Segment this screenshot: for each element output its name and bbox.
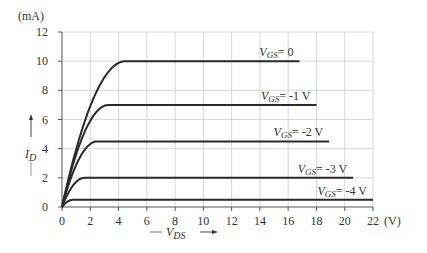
y-tick-label: 8 bbox=[42, 83, 48, 97]
x-tick-label: 0 bbox=[59, 214, 65, 228]
curve-vgs-0 bbox=[62, 61, 300, 207]
y-tick-label: 10 bbox=[36, 54, 48, 68]
curve-vgs-4 bbox=[62, 200, 373, 207]
arrow-right-icon bbox=[212, 230, 218, 234]
y-tick-label: 6 bbox=[42, 113, 48, 127]
y-tick-label: 2 bbox=[42, 171, 48, 185]
jfet-drain-characteristics-chart: 0246810121416182022(V)024681012 VGS= 0VG… bbox=[0, 0, 427, 253]
y-tick-label: 0 bbox=[42, 200, 48, 214]
curve-vgs-3 bbox=[62, 178, 353, 207]
x-tick-label: 2 bbox=[87, 214, 93, 228]
curve-label-sub: GS bbox=[325, 189, 336, 199]
curve-label-value: = -3 V bbox=[316, 162, 348, 176]
y-axis-title: ID bbox=[24, 114, 37, 176]
x-tick-label: 20 bbox=[339, 214, 351, 228]
x-tick-label: 18 bbox=[310, 214, 322, 228]
x-tick-label: 4 bbox=[116, 214, 122, 228]
x-tick-label: 6 bbox=[144, 214, 150, 228]
curve-vgs-2 bbox=[62, 141, 329, 207]
curve-label: VGS= -4 V bbox=[317, 184, 367, 199]
y-title-sub: D bbox=[28, 152, 37, 163]
grid bbox=[62, 32, 373, 207]
x-unit-label: (V) bbox=[384, 214, 401, 228]
y-unit-label: (mA) bbox=[18, 9, 44, 23]
curve-label-value: = -1 V bbox=[279, 89, 311, 103]
curve-label-sub: GS bbox=[267, 50, 278, 60]
x-tick-label: 14 bbox=[254, 214, 266, 228]
x-tick-label: 12 bbox=[226, 214, 238, 228]
y-tick-label: 12 bbox=[36, 25, 48, 39]
curve-label-value: = -4 V bbox=[336, 184, 368, 198]
curve-label-value: = -2 V bbox=[292, 125, 324, 139]
svg-text:ID: ID bbox=[24, 147, 37, 163]
curves bbox=[62, 61, 373, 207]
curve-label-sub: GS bbox=[305, 167, 316, 177]
x-tick-label: 22 bbox=[367, 214, 379, 228]
curve-label-sub: GS bbox=[268, 94, 279, 104]
curve-label: VGS= 0 bbox=[259, 45, 293, 60]
curve-label-value: = 0 bbox=[278, 45, 294, 59]
curve-label-sub: GS bbox=[281, 130, 292, 140]
curve-vgs-1 bbox=[62, 105, 317, 207]
curve-label: VGS= -1 V bbox=[261, 89, 311, 104]
y-tick-label: 4 bbox=[42, 142, 48, 156]
curve-labels: VGS= 0VGS= -1 VVGS= -2 VVGS= -3 VVGS= -4… bbox=[259, 45, 367, 199]
arrow-up-icon bbox=[29, 114, 33, 120]
x-title-sub: DS bbox=[172, 230, 185, 241]
curve-label: VGS= -2 V bbox=[274, 125, 324, 140]
axes bbox=[58, 32, 373, 211]
x-tick-label: 16 bbox=[282, 214, 294, 228]
x-tick-label: 10 bbox=[197, 214, 209, 228]
curve-label: VGS= -3 V bbox=[298, 162, 348, 177]
